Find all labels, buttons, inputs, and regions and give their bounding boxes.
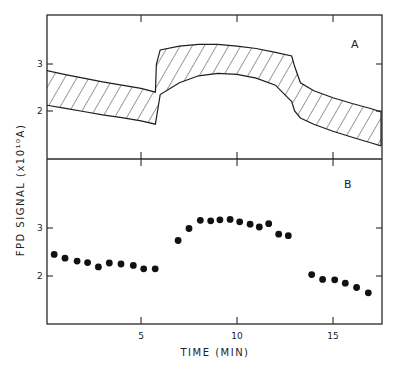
data-point (319, 276, 326, 283)
data-point (236, 218, 243, 225)
data-point (353, 284, 360, 291)
data-point (118, 261, 125, 268)
panel-label-a: A (351, 38, 359, 51)
data-point (342, 280, 349, 287)
data-point (227, 216, 234, 223)
data-point (197, 217, 204, 224)
data-point (106, 260, 113, 267)
data-point (95, 264, 102, 271)
data-point (175, 237, 182, 244)
data-point (217, 216, 224, 223)
data-point (152, 265, 159, 272)
data-point (186, 225, 193, 232)
data-point (308, 271, 315, 278)
data-point (140, 265, 147, 272)
data-point (265, 220, 272, 227)
panel-b (51, 216, 372, 296)
y-axis-title: FPD SIGNAL (x10¹⁰A) (15, 124, 26, 257)
data-point (275, 231, 282, 238)
data-point (62, 255, 69, 262)
data-point (365, 289, 372, 296)
panel-a (45, 44, 381, 146)
data-point (247, 221, 254, 228)
x-axis-title: TIME (MIN) (179, 347, 249, 358)
a-ytick-label-3: 3 (37, 59, 43, 69)
xtick-label-5: 5 (138, 331, 144, 341)
xtick-label-10: 10 (231, 331, 243, 341)
data-point (74, 258, 81, 265)
b-ytick-label-3: 3 (37, 223, 43, 233)
fpd-signal-figure: A B 3 2 3 2 5 10 15 TIME (MIN) FPD SIGNA… (0, 0, 395, 369)
data-point (331, 276, 338, 283)
a-ytick-label-2: 2 (37, 106, 43, 116)
data-point (130, 262, 137, 269)
data-point (51, 251, 58, 258)
data-point (256, 224, 263, 231)
b-ytick-label-2: 2 (37, 271, 43, 281)
data-point (285, 232, 292, 239)
xtick-label-15: 15 (327, 331, 338, 341)
data-point (207, 217, 214, 224)
panel-label-b: B (344, 178, 352, 191)
data-point (84, 259, 91, 266)
